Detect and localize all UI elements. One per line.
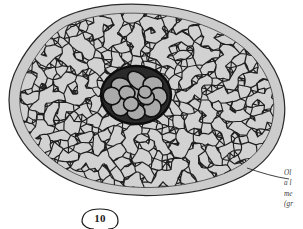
figure-number-label: 10 (88, 212, 112, 224)
caption-line-3: me (284, 189, 303, 199)
caption-line-2: a l (284, 178, 303, 188)
figure-page: 10 Ol a l me (gr (0, 0, 303, 229)
caption-line-1: Ol (284, 168, 303, 178)
caption-line-4: (gr (284, 199, 303, 209)
cross-section-figure (0, 0, 303, 229)
caption-block: Ol a l me (gr (284, 168, 303, 210)
central-bundle (100, 66, 171, 124)
